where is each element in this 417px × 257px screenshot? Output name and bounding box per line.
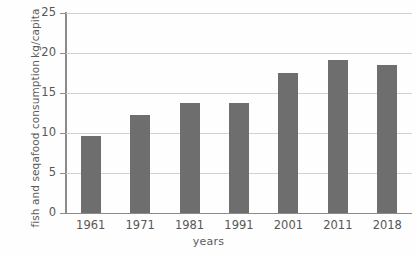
y-axis-tick-label: 10 (20, 125, 56, 139)
x-axis-tick-label: 1991 (214, 218, 264, 232)
y-axis-tick (60, 213, 66, 214)
x-axis-tick-label: 1981 (165, 218, 215, 232)
bar-1961 (81, 136, 101, 213)
bar-1971 (130, 115, 150, 213)
x-axis-tick-label: 1961 (66, 218, 116, 232)
bar-2011 (328, 60, 348, 213)
y-axis-tick-label: 0 (20, 205, 56, 219)
x-axis-tick-label: 2001 (263, 218, 313, 232)
bar-2018 (377, 65, 397, 213)
bars (66, 13, 412, 213)
y-axis-tick-label: 5 (20, 165, 56, 179)
y-axis-tick-label: 25 (20, 5, 56, 19)
bar-1981 (180, 103, 200, 213)
y-axis-tick-label: 20 (20, 45, 56, 59)
gridline (66, 213, 412, 214)
x-axis-tick-label: 2011 (313, 218, 363, 232)
bar-2001 (278, 73, 298, 213)
bar-1991 (229, 103, 249, 213)
x-axis-tick-label: 1971 (115, 218, 165, 232)
x-axis-tick-label: 2018 (362, 218, 412, 232)
bar-chart: fish and seqafood consumption kg/capita … (0, 0, 417, 257)
y-axis-tick-label: 15 (20, 85, 56, 99)
x-axis-title: years (0, 235, 417, 248)
